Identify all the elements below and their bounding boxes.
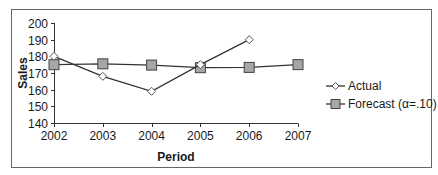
square-marker-icon [293,60,303,70]
square-marker-icon [98,59,108,69]
legend-label: Actual [348,79,381,93]
legend-square-icon [331,100,340,109]
y-tick-label: 180 [28,50,48,64]
y-tick-label: 190 [28,34,48,48]
x-tick-label: 2005 [187,129,214,143]
x-tick-label: 2002 [41,129,68,143]
x-tick-label: 2007 [285,129,312,143]
x-axis-title: Period [157,150,194,164]
legend-label: Forecast (α=.10) [348,97,437,111]
y-tick-label: 150 [28,100,48,114]
chart: 1401501601701801902002002200320042005200… [0,0,438,175]
square-marker-icon [49,60,59,70]
y-axis-title: Sales [16,57,30,89]
x-tick-label: 2004 [138,129,165,143]
square-marker-icon [147,60,157,70]
x-tick-label: 2006 [236,129,263,143]
y-tick-label: 160 [28,84,48,98]
y-tick-label: 200 [28,17,48,31]
square-marker-icon [244,62,254,72]
x-tick-label: 2003 [89,129,116,143]
y-tick-label: 170 [28,67,48,81]
